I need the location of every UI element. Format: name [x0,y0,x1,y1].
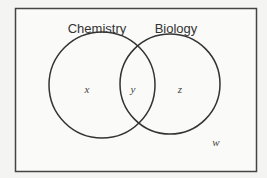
venn-diagram: Chemistry Biology x y z w [0,0,267,178]
chemistry-label: Chemistry [68,21,127,36]
region-intersection-label: y [130,83,136,95]
region-biology-only-label: z [177,83,183,95]
biology-label: Biology [155,21,198,36]
region-chemistry-only-label: x [84,83,90,95]
region-neither-label: w [212,136,220,148]
